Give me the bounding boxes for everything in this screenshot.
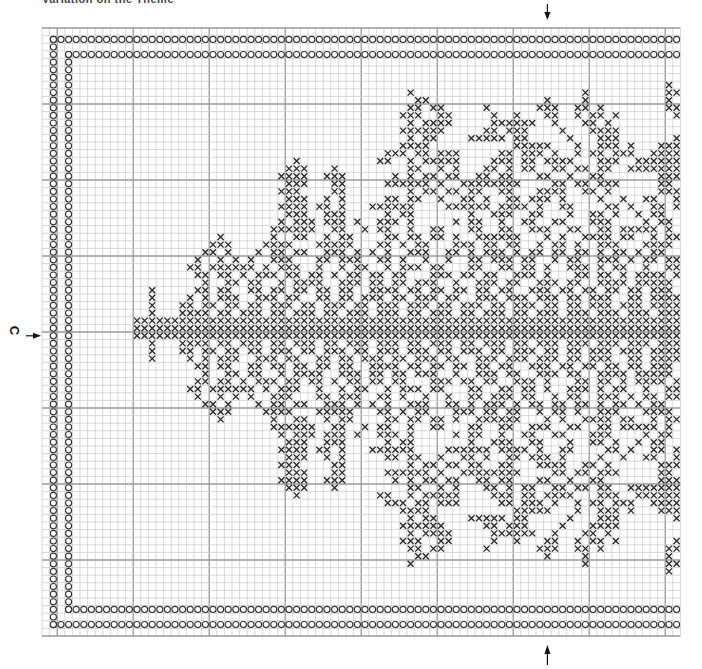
cross-stitch-chart (0, 0, 702, 669)
grid-lines (42, 28, 680, 636)
